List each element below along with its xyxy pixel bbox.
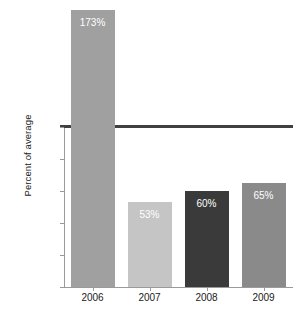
x-axis-line — [64, 287, 293, 288]
y-tick-mark — [60, 127, 64, 128]
y-tick-mark — [60, 191, 64, 192]
bar-chart: Percent of average 0%20%40%60%80%100% 17… — [0, 0, 301, 316]
x-axis-label-2008: 2008 — [178, 293, 235, 303]
x-tick-mark — [207, 287, 208, 291]
x-axis-label-2009: 2009 — [235, 293, 292, 303]
bar-2006: 173% — [71, 10, 115, 287]
bar-value-label: 65% — [242, 191, 286, 201]
x-tick-mark — [93, 287, 94, 291]
bar-2008: 60% — [185, 191, 229, 287]
x-tick-mark — [264, 287, 265, 291]
bar-2009: 65% — [242, 183, 286, 287]
x-axis-label-2006: 2006 — [64, 293, 121, 303]
x-tick-mark — [150, 287, 151, 291]
y-tick-mark — [60, 255, 64, 256]
bar-value-label: 173% — [71, 18, 115, 28]
bar-value-label: 53% — [128, 210, 172, 220]
y-tick-mark — [60, 223, 64, 224]
x-axis-label-2007: 2007 — [121, 293, 178, 303]
y-axis-ticks: 0%20%40%60%80%100% — [0, 0, 64, 316]
y-tick-mark — [60, 287, 64, 288]
bar-2007: 53% — [128, 202, 172, 287]
y-tick-mark — [60, 159, 64, 160]
bar-value-label: 60% — [185, 199, 229, 209]
